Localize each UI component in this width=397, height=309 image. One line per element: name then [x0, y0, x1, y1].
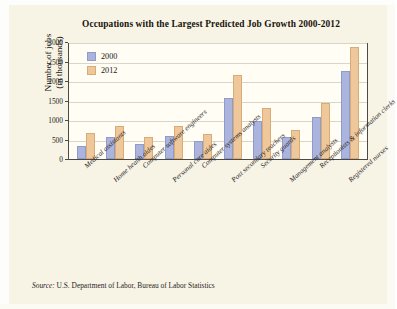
- page-edge-left: [0, 0, 9, 309]
- bar-group: [194, 44, 212, 159]
- bar-2000: [341, 71, 350, 159]
- bar-2012: [262, 108, 271, 159]
- bar-2012: [86, 133, 95, 159]
- bar-2012: [203, 134, 212, 159]
- chart-title: Occupations with the Largest Predicted J…: [46, 19, 376, 29]
- y-axis-tick-label: 0: [33, 155, 63, 164]
- bar-2000: [106, 137, 115, 159]
- y-axis-tick-label: 1000: [33, 116, 63, 125]
- y-axis-tick-mark: [65, 159, 68, 160]
- bar-group: [165, 44, 183, 159]
- y-axis-tick-label: 1500: [33, 97, 63, 106]
- bar-2000: [282, 137, 291, 159]
- bar-group: [312, 44, 330, 159]
- bar-group: [135, 44, 153, 159]
- bar-group: [282, 44, 300, 159]
- y-axis-tick-label: 2500: [33, 58, 63, 67]
- page-edge-right: [387, 0, 395, 309]
- source-note: Source: U.S. Department of Labor, Bureau…: [32, 281, 215, 290]
- y-axis-tick-mark: [65, 101, 68, 102]
- bar-group: [341, 44, 359, 159]
- bar-2012: [321, 103, 330, 159]
- source-prefix: Source:: [32, 281, 55, 290]
- source-text: U.S. Department of Labor, Bureau of Labo…: [55, 281, 215, 290]
- bar-2012: [115, 126, 124, 159]
- bar-group: [77, 44, 95, 159]
- y-axis-tick-mark: [65, 140, 68, 141]
- bar-2012: [233, 75, 242, 159]
- y-axis-tick-mark: [65, 81, 68, 82]
- y-axis-tick-label: 500: [33, 136, 63, 145]
- y-axis-tick-mark: [65, 42, 68, 43]
- y-axis-tick-mark: [65, 120, 68, 121]
- bar-2012: [291, 130, 300, 159]
- bar-2012: [174, 126, 183, 159]
- bar-2000: [165, 136, 174, 159]
- bar-2000: [253, 121, 262, 159]
- bar-2000: [312, 117, 321, 159]
- bar-group: [106, 44, 124, 159]
- bar-group: [253, 44, 271, 159]
- y-axis-tick-label: 2000: [33, 77, 63, 86]
- bar-group: [224, 44, 242, 159]
- bar-2000: [224, 98, 233, 159]
- page-edge-bottom: [0, 304, 395, 309]
- y-axis-tick-mark: [65, 62, 68, 63]
- bar-2012: [144, 137, 153, 159]
- plot-area: 2000 2012: [68, 43, 368, 160]
- bar-2012: [350, 47, 359, 159]
- bar-2000: [135, 144, 144, 159]
- bar-groups: [69, 44, 367, 159]
- bar-2000: [194, 141, 203, 159]
- bar-2000: [77, 146, 86, 159]
- y-axis-tick-label: 3000: [33, 38, 63, 47]
